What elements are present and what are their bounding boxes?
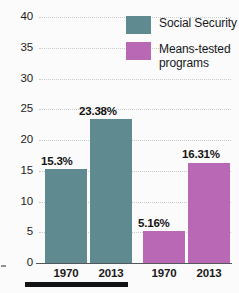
legend-swatch-means-tested-icon bbox=[126, 42, 151, 60]
y-axis-label-35: 35 bbox=[0, 41, 33, 53]
bar-value-label-social-security-2013: 23.38% bbox=[79, 105, 117, 117]
y-axis-label-5: 5 bbox=[0, 225, 33, 237]
gridline-25 bbox=[39, 109, 231, 111]
y-axis-label-30: 30 bbox=[0, 72, 33, 84]
legend-label-means-tested-line2: programs bbox=[159, 57, 231, 71]
y-axis-label-20: 20 bbox=[0, 133, 33, 145]
legend-item-social-security: Social Security bbox=[126, 16, 239, 34]
x-axis-label-means-tested-1970: 1970 bbox=[143, 267, 185, 279]
y-axis-label-15: 15 bbox=[0, 164, 33, 176]
x-axis-line bbox=[36, 263, 232, 264]
bottom-rule bbox=[25, 282, 128, 287]
x-axis-label-social-security-2013: 2013 bbox=[90, 267, 132, 279]
bar-means-tested-2013 bbox=[188, 163, 230, 263]
legend-label-social-security: Social Security bbox=[159, 17, 237, 31]
bar-social-security-1970 bbox=[45, 169, 87, 263]
legend-label-social-security-wrap: Social Security bbox=[159, 16, 237, 31]
bar-value-label-means-tested-1970: 5.16% bbox=[138, 217, 170, 229]
y-axis-label-10: 10 bbox=[0, 195, 33, 207]
gridline-30 bbox=[39, 79, 231, 81]
y-axis-label-25: 25 bbox=[0, 102, 33, 114]
legend-item-means-tested: Means-tested programs bbox=[126, 42, 239, 70]
bar-means-tested-1970 bbox=[143, 231, 185, 263]
bar-value-label-means-tested-2013: 16.31% bbox=[182, 148, 220, 160]
edge-artifact-mark bbox=[1, 265, 6, 267]
chart-legend: Social Security Means-tested programs bbox=[126, 16, 239, 78]
bar-chart: 40 35 30 25 20 15 10 5 0 15.3% 23.38% 5.… bbox=[0, 0, 239, 293]
bar-social-security-2013 bbox=[90, 119, 132, 263]
gridline-20 bbox=[39, 140, 231, 142]
legend-label-means-tested-wrap: Means-tested programs bbox=[159, 42, 231, 70]
legend-swatch-social-security-icon bbox=[126, 16, 151, 34]
y-axis-label-40: 40 bbox=[0, 10, 33, 22]
x-axis-label-social-security-1970: 1970 bbox=[45, 267, 87, 279]
x-axis-label-means-tested-2013: 2013 bbox=[188, 267, 230, 279]
bar-value-label-social-security-1970: 15.3% bbox=[41, 155, 73, 167]
legend-label-means-tested-line1: Means-tested bbox=[159, 43, 231, 57]
